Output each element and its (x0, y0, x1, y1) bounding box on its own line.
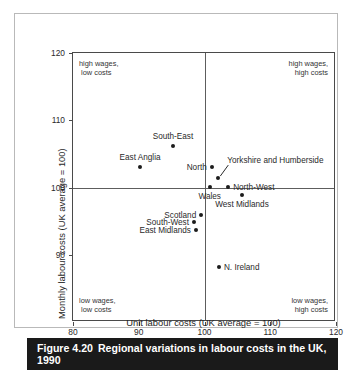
data-point (226, 185, 230, 189)
x-tick-label: 80 (68, 327, 77, 337)
y-axis-title: Monthly labour costs (UK average = 100) (56, 148, 67, 319)
x-axis-title: Unit labour costs (UK average = 100) (72, 317, 335, 328)
figure-caption-number: Figure 4.20 (37, 342, 93, 354)
data-point (194, 228, 198, 232)
y-axis-title-wrapper: Monthly labour costs (UK average = 100) (46, 54, 58, 319)
data-point-label: N. Ireland (224, 262, 260, 271)
data-point (216, 176, 220, 180)
figure-caption-bar: Figure 4.20Regional variations in labour… (27, 338, 338, 370)
y-tick-mark (69, 188, 73, 189)
reference-line-horizontal (73, 188, 334, 189)
data-point-label: East Anglia (120, 153, 161, 162)
data-point (171, 144, 175, 148)
data-point (192, 220, 196, 224)
annotation-bottom-left: low wages, low costs (79, 296, 116, 314)
y-tick-mark (69, 120, 73, 121)
x-tick-label: 120 (329, 327, 343, 337)
scatter-plot-area: high wages, low costs high wages, high c… (72, 52, 335, 321)
reference-line-vertical (205, 53, 206, 320)
data-point (138, 165, 142, 169)
data-point (210, 165, 214, 169)
data-point (199, 213, 203, 217)
data-point-label: North (187, 162, 207, 171)
annotation-top-left: high wages, low costs (79, 59, 118, 77)
data-point-label: West Midlands (215, 200, 269, 209)
data-point-label: Yorkshire and Humberside (227, 156, 323, 165)
annotation-top-right: high wages, high costs (289, 59, 328, 77)
data-point (217, 265, 221, 269)
data-point (208, 185, 212, 189)
data-point (240, 193, 244, 197)
y-tick-mark (69, 53, 73, 54)
data-point-label: South-East (153, 132, 194, 141)
figure-container: high wages, low costs high wages, high c… (0, 0, 353, 380)
data-point-label: North-West (233, 182, 274, 191)
x-tick-label: 90 (134, 327, 143, 337)
x-tick-mark (336, 322, 337, 326)
x-tick-label: 100 (198, 327, 212, 337)
figure-frame: high wages, low costs high wages, high c… (14, 13, 338, 328)
annotation-bottom-right: low wages, high costs (291, 296, 328, 314)
data-point-label: East Midlands (140, 225, 191, 234)
x-tick-label: 110 (264, 327, 277, 337)
y-tick-mark (69, 255, 73, 256)
